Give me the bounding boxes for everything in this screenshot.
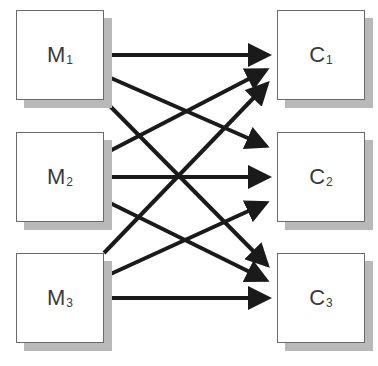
node-box: M1 bbox=[16, 10, 104, 100]
node-label: C3 bbox=[309, 287, 333, 309]
node-label: C1 bbox=[309, 44, 333, 66]
node-label: C2 bbox=[309, 166, 333, 188]
node-box: C3 bbox=[277, 253, 365, 343]
node-box: M3 bbox=[16, 253, 104, 343]
node-c2: C2 bbox=[277, 132, 365, 222]
node-m2: M2 bbox=[16, 132, 104, 222]
node-box: C2 bbox=[277, 132, 365, 222]
node-box: M2 bbox=[16, 132, 104, 222]
node-c1: C1 bbox=[277, 10, 365, 100]
node-box: C1 bbox=[277, 10, 365, 100]
node-m3: M3 bbox=[16, 253, 104, 343]
node-label: M3 bbox=[47, 287, 73, 309]
node-m1: M1 bbox=[16, 10, 104, 100]
node-c3: C3 bbox=[277, 253, 365, 343]
node-label: M1 bbox=[47, 44, 73, 66]
node-label: M2 bbox=[47, 166, 73, 188]
